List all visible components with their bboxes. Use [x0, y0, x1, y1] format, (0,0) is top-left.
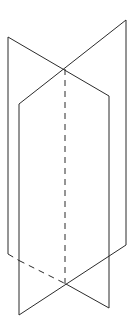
- plane-a-bottom-edge: [66, 284, 109, 308]
- plane-a-bottom-edge-hidden: [19, 261, 66, 285]
- intersecting-planes-diagram: [0, 0, 137, 332]
- plane-a: [8, 37, 109, 308]
- plane-b-bottom-edge: [19, 245, 126, 315]
- plane-b-top-edge: [19, 20, 126, 104]
- plane-b: [19, 20, 126, 315]
- plane-a-bottom-edge-hidden: [8, 254, 19, 261]
